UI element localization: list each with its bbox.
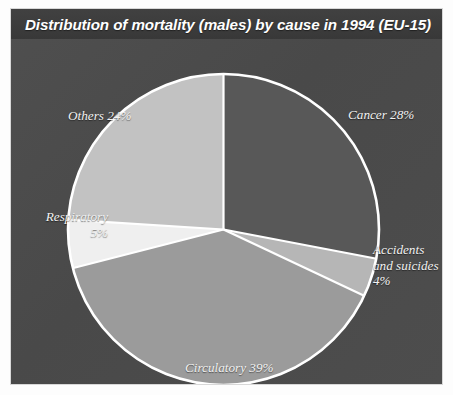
chart-title-bar: Distribution of mortality (males) by cau… (11, 9, 442, 39)
pie-label-respiratory: Respiratory 5% (18, 209, 108, 240)
pie-slice-others[interactable] (68, 74, 224, 230)
pie-label-accidents: Accidents and suicides 4% (373, 242, 439, 289)
page-title: Distribution of mortality (males) by cau… (11, 16, 431, 33)
pie-slice-cancer[interactable] (224, 74, 380, 259)
chart-panel: Distribution of mortality (males) by cau… (11, 9, 442, 384)
pie-chart-area: Others 24% Cancer 28% Accidents and suic… (11, 39, 442, 384)
pie-label-cancer: Cancer 28% (348, 107, 414, 123)
pie-label-others: Others 24% (68, 108, 131, 124)
pie-label-circulatory: Circulatory 39% (185, 360, 274, 376)
chart-figure: Distribution of mortality (males) by cau… (0, 0, 453, 395)
